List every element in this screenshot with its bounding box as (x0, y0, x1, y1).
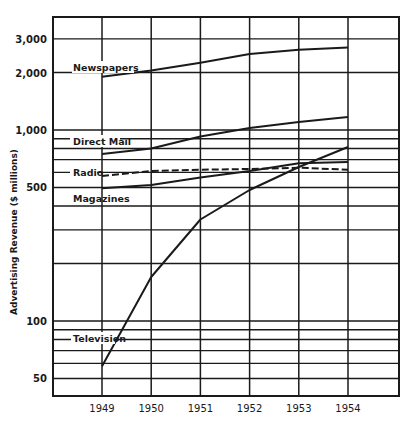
y-tick-label: 50 (33, 373, 47, 384)
y-axis-ticks: 3,0002,0001,00050010050 (15, 34, 47, 385)
series-label-direct-mail: Direct Mail (73, 136, 131, 147)
x-tick-label: 1952 (237, 403, 262, 414)
series-label-television: Television (73, 333, 126, 344)
series-line-magazines (102, 162, 348, 188)
x-tick-label: 1953 (286, 403, 311, 414)
y-tick-label: 1,000 (15, 125, 47, 136)
y-tick-label: 100 (26, 316, 47, 327)
y-tick-label: 3,000 (15, 34, 47, 45)
series-lines (102, 48, 348, 367)
advertising-revenue-chart: 3,0002,0001,00050010050 1949195019511952… (0, 0, 412, 425)
x-tick-label: 1954 (335, 403, 360, 414)
y-tick-label: 500 (26, 182, 47, 193)
y-tick-label: 2,000 (15, 68, 47, 79)
series-label-radio: Radio (73, 167, 104, 178)
series-label-magazines: Magazines (73, 193, 130, 204)
horizontal-gridlines (53, 39, 399, 379)
x-tick-label: 1951 (188, 403, 213, 414)
x-axis-ticks: 194919501951195219531954 (89, 403, 360, 414)
series-label-newspapers: Newspapers (73, 62, 139, 73)
y-axis-label: Advertising Revenue ($ millions) (9, 149, 19, 315)
x-tick-label: 1950 (138, 403, 163, 414)
x-tick-label: 1949 (89, 403, 114, 414)
series-line-television (102, 147, 348, 366)
